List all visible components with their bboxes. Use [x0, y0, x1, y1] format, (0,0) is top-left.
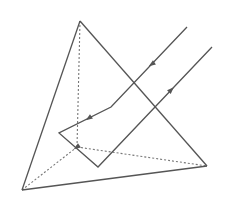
hidden-edges [22, 21, 207, 190]
edge-apex-left [22, 21, 80, 190]
retroreflector-diagram [0, 0, 231, 205]
diagram-canvas [0, 0, 231, 205]
hidden-edge-back-right [77, 147, 207, 166]
visible-edges [22, 21, 207, 190]
ray-arrows [72, 60, 175, 151]
edge-left-right [22, 166, 207, 190]
hidden-edge-apex-back [77, 21, 80, 147]
edge-apex-right [80, 21, 207, 166]
arrow-icon [84, 114, 93, 122]
